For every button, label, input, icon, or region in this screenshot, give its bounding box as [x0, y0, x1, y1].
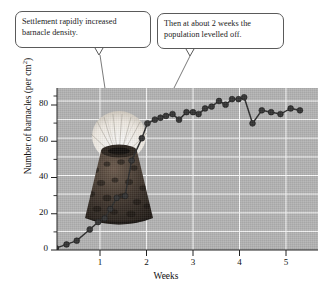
data-point — [114, 195, 120, 201]
settlement-callout-line2: barnacle density. — [22, 27, 144, 38]
settlement-callout: Settlement rapidly increased barnacle de… — [15, 11, 151, 48]
data-point — [202, 106, 208, 112]
data-point — [297, 107, 303, 113]
y-tick-0: 0 — [24, 243, 48, 253]
y-tick-20: 20 — [24, 207, 48, 217]
x-tick-2: 2 — [139, 257, 155, 267]
data-point — [268, 109, 274, 115]
x-tick-5: 5 — [278, 257, 294, 267]
data-point — [158, 115, 164, 121]
data-point — [145, 120, 151, 126]
data-point — [278, 111, 284, 117]
data-point — [95, 219, 101, 225]
data-point — [139, 135, 145, 141]
x-major-ticks — [100, 250, 286, 256]
data-point — [209, 104, 215, 110]
x-tick-1: 1 — [92, 257, 108, 267]
x-axis-label: Weeks — [0, 271, 332, 281]
data-point — [184, 109, 190, 115]
data-point — [74, 238, 80, 244]
data-point — [107, 206, 113, 212]
data-point — [152, 117, 158, 123]
plateau-callout: Then at about 2 weeks the population lev… — [157, 13, 284, 49]
x-tick-3: 3 — [185, 257, 201, 267]
data-point — [64, 242, 70, 248]
chart-canvas — [57, 88, 318, 250]
x-tick-4: 4 — [232, 257, 248, 267]
data-series — [57, 94, 303, 250]
data-point — [57, 245, 59, 250]
barnacle-photo — [85, 111, 153, 225]
data-point — [87, 227, 93, 233]
data-point — [229, 96, 235, 102]
plot-area — [57, 88, 318, 250]
data-point — [288, 106, 294, 112]
data-point — [236, 96, 242, 102]
plateau-callout-line1: Then at about 2 weeks the — [164, 18, 277, 29]
data-point — [170, 111, 176, 117]
data-point — [250, 120, 256, 126]
data-point — [176, 117, 182, 123]
y-axis-label: Number of barnacles (per cm2) — [21, 26, 33, 206]
data-point — [196, 111, 202, 117]
data-point — [163, 113, 169, 119]
data-point — [102, 215, 108, 221]
barnacle-settlement-figure: Settlement rapidly increased barnacle de… — [0, 0, 332, 301]
data-point — [129, 158, 135, 164]
data-point — [241, 94, 247, 100]
plateau-callout-line2: population levelled off. — [164, 29, 277, 40]
data-point — [259, 107, 265, 113]
data-point — [190, 109, 196, 115]
settlement-callout-line1: Settlement rapidly increased — [22, 16, 144, 27]
data-point — [216, 98, 222, 104]
data-point — [223, 102, 229, 108]
data-point — [122, 193, 128, 199]
